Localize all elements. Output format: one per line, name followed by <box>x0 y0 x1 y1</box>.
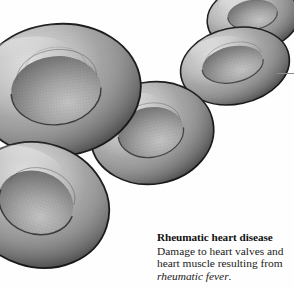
caption-body: Damage to heart valves and heart muscle … <box>157 245 289 282</box>
caption-term-rheumatic-fever: rheumatic fever <box>157 270 229 282</box>
caption-title: Rheumatic heart disease <box>157 231 289 244</box>
caption-body-line-1: Damage to heart valves and <box>157 245 289 257</box>
caption-body-line-2: heart muscle resulting from <box>157 257 289 269</box>
caption-body-line-3: rheumatic fever. <box>157 270 289 282</box>
horizontal-rule <box>277 73 294 74</box>
caption-terminator: . <box>229 270 232 282</box>
caption-block: Rheumatic heart disease Damage to heart … <box>157 231 289 282</box>
figure-page: Rheumatic heart disease Damage to heart … <box>0 0 294 288</box>
